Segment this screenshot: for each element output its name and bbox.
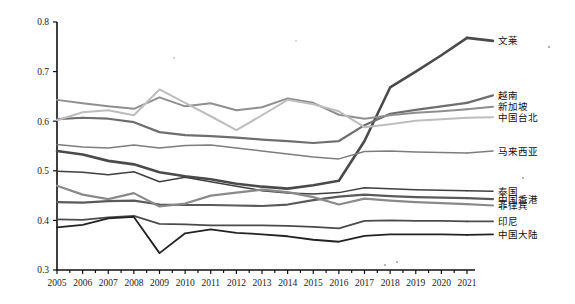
x-axis-tick-labels: 2005200620072008200920102011201220132014… (48, 278, 477, 288)
series-leader-line (467, 198, 493, 199)
x-tick-label: 2012 (227, 278, 246, 288)
x-tick-label: 2007 (99, 278, 118, 288)
series-line (57, 217, 467, 253)
x-tick-label: 2020 (432, 278, 451, 288)
y-tick-label: 0.3 (37, 265, 49, 275)
series-label: 菲律宾 (498, 200, 528, 211)
series-end-labels: 文莱越南新加坡中国台北马来西亚泰国中国香港菲律宾印尼中国大陆 (467, 35, 538, 239)
y-tick-label: 0.5 (37, 166, 49, 176)
x-tick-label: 2019 (406, 278, 425, 288)
chart-canvas: 0.30.40.50.60.70.8 200520062007200820092… (0, 0, 575, 304)
y-axis-tick-labels: 0.30.40.50.60.70.8 (37, 17, 49, 275)
y-tick-label: 0.4 (37, 216, 49, 226)
x-tick-label: 2017 (355, 278, 374, 288)
y-tick-label: 0.6 (37, 117, 49, 127)
x-tick-label: 2018 (381, 278, 400, 288)
y-tick-label: 0.8 (37, 17, 49, 27)
x-tick-label: 2010 (176, 278, 195, 288)
series-leader-line (467, 151, 493, 153)
series-line (57, 89, 467, 130)
series-leader-line (467, 107, 493, 109)
x-tick-label: 2015 (304, 278, 323, 288)
series-lines (57, 38, 467, 253)
x-tick-label: 2014 (278, 278, 297, 288)
series-leader-line (467, 117, 493, 118)
series-label: 印尼 (498, 216, 518, 227)
series-label: 马来西亚 (498, 146, 538, 157)
series-line (57, 145, 467, 159)
series-label: 新加坡 (498, 101, 528, 112)
series-label: 中国台北 (498, 112, 538, 123)
series-label: 文莱 (498, 35, 518, 46)
line-chart: 0.30.40.50.60.70.8 200520062007200820092… (0, 0, 575, 304)
x-tick-label: 2008 (124, 278, 143, 288)
x-tick-label: 2013 (253, 278, 272, 288)
x-tick-label: 2016 (329, 278, 348, 288)
axes (53, 22, 475, 274)
x-tick-label: 2011 (201, 278, 220, 288)
series-leader-line (467, 191, 493, 192)
x-tick-label: 2009 (150, 278, 169, 288)
series-leader-line (467, 38, 493, 41)
x-tick-label: 2021 (458, 278, 477, 288)
series-label: 越南 (498, 90, 518, 101)
x-tick-label: 2005 (48, 278, 67, 288)
x-tick-label: 2006 (73, 278, 92, 288)
series-label: 中国大陆 (498, 229, 538, 240)
series-leader-line (467, 204, 493, 205)
series-leader-line (467, 95, 493, 102)
y-tick-label: 0.7 (37, 67, 49, 77)
